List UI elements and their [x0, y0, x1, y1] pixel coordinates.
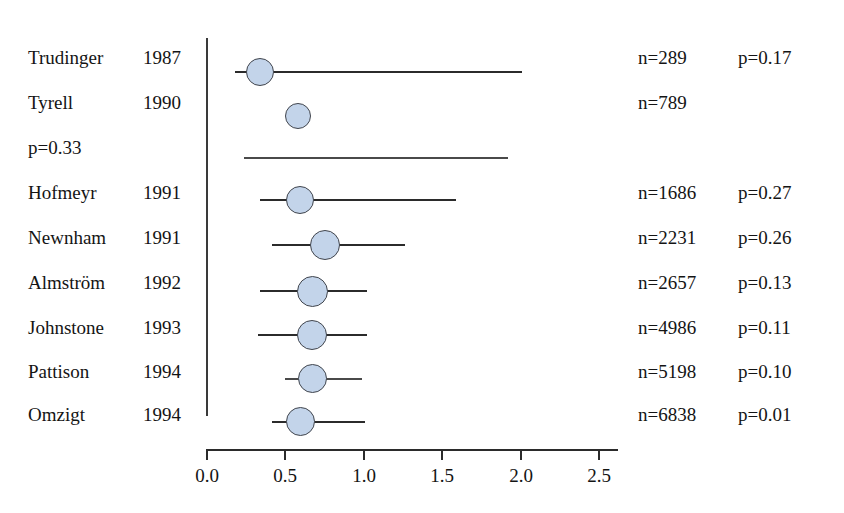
sample-size-hofmeyr: n=1686	[638, 183, 696, 202]
study-name-omzigt: Omzigt	[28, 405, 85, 424]
study-year-omzigt: 1994	[143, 405, 181, 424]
ci-line-tyrell	[244, 157, 508, 159]
study-year-tyrell: 1990	[143, 93, 181, 112]
p-value-newnham: p=0.26	[738, 228, 791, 247]
study-year-almstrom: 1992	[143, 273, 181, 292]
point-marker-hofmeyr	[286, 186, 314, 214]
x-axis-label-1: 0.5	[273, 466, 297, 485]
x-axis-label-4: 2.0	[509, 466, 533, 485]
point-marker-omzigt	[286, 407, 315, 436]
study-year-newnham: 1991	[143, 228, 181, 247]
p-value-omzigt: p=0.01	[738, 405, 791, 424]
point-marker-trudinger	[246, 58, 274, 86]
p-value-hofmeyr: p=0.27	[738, 183, 791, 202]
sample-size-newnham: n=2231	[638, 228, 696, 247]
point-marker-pattison	[298, 364, 327, 393]
p-value-johnstone: p=0.11	[738, 318, 791, 337]
study-name-almstrom: Almström	[28, 273, 105, 292]
study-year-hofmeyr: 1991	[143, 183, 181, 202]
x-axis-tick-0	[206, 449, 208, 460]
p-value-pattison: p=0.10	[738, 362, 791, 381]
x-axis-label-3: 1.5	[430, 466, 454, 485]
x-axis-tick-4	[520, 449, 522, 460]
study-year-johnstone: 1993	[143, 318, 181, 337]
study-name-pattison: Pattison	[28, 362, 89, 381]
study-year-trudinger: 1987	[143, 48, 181, 67]
x-axis-tick-1	[284, 449, 286, 460]
point-marker-almstrom	[297, 276, 328, 307]
x-axis-tick-5	[598, 449, 600, 460]
study-name-tyrell: Tyrell	[28, 93, 73, 112]
forest-plot: Trudinger 1987 n=289 p=0.17 Tyrell 1990 …	[0, 0, 844, 513]
x-axis-label-2: 1.0	[352, 466, 376, 485]
study-name-hofmeyr: Hofmeyr	[28, 183, 97, 202]
study-name-trudinger: Trudinger	[28, 48, 103, 67]
sample-size-tyrell: n=789	[638, 93, 687, 112]
p-value-trudinger: p=0.17	[738, 48, 791, 67]
ci-line-trudinger	[235, 71, 522, 73]
p-value-almstrom: p=0.13	[738, 273, 791, 292]
point-marker-tyrell	[285, 103, 311, 129]
point-marker-newnham	[310, 230, 340, 260]
study-name-johnstone: Johnstone	[28, 318, 104, 337]
sample-size-omzigt: n=6838	[638, 405, 696, 424]
sample-size-pattison: n=5198	[638, 362, 696, 381]
x-axis-tick-2	[363, 449, 365, 460]
study-year-pattison: 1994	[143, 362, 181, 381]
p-value-tyrell: p=0.33	[28, 138, 81, 157]
x-axis-line	[206, 449, 618, 451]
reference-line-vertical	[206, 38, 208, 416]
x-axis-label-0: 0.0	[195, 466, 219, 485]
x-axis-label-5: 2.5	[587, 466, 611, 485]
sample-size-almstrom: n=2657	[638, 273, 696, 292]
x-axis-tick-3	[441, 449, 443, 460]
point-marker-johnstone	[297, 320, 327, 350]
sample-size-johnstone: n=4986	[638, 318, 696, 337]
study-name-newnham: Newnham	[28, 228, 106, 247]
sample-size-trudinger: n=289	[638, 48, 687, 67]
